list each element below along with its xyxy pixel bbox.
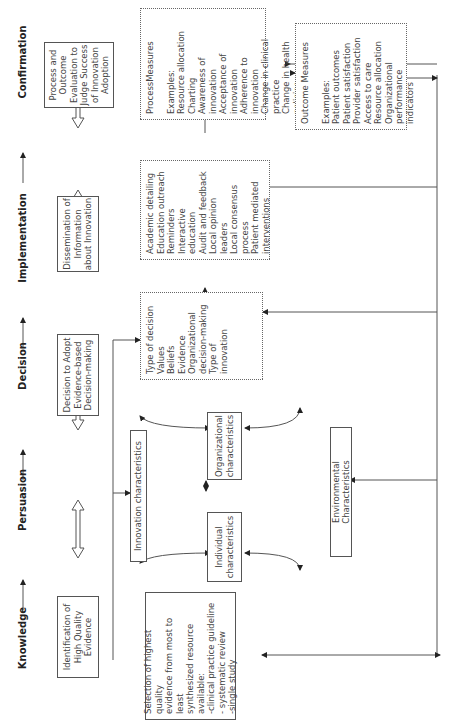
outcome-measures-list: Examples: Patient outcomes Patient satis… [321, 29, 416, 124]
stage-decision: Decision [17, 342, 28, 390]
decision-to-adopt-box: Decision to Adopt Evidence-based Decisio… [57, 334, 99, 416]
evidence-selection-box: Selection of highest quality evidence fr… [145, 592, 236, 720]
decision-factors-box: Type of decision Values Beliefs Evidence… [140, 292, 263, 380]
outcome-measures-box: Outcome Measures Examples: Patient outco… [295, 23, 407, 130]
identify-evidence-box: Identification of High Quality Evidence [57, 596, 99, 678]
stage-implementation: Implementation [17, 193, 28, 283]
stage-knowledge: Knowledge [17, 607, 28, 669]
individual-characteristics-box: Individual characteristics [207, 512, 242, 582]
evidence-adoption-diagram: Knowledge Persuasion Decision Implementa… [0, 0, 455, 728]
outcome-measures-title: Outcome Measures [300, 42, 311, 124]
implementation-strategies-box: Academic detailing Education outreach Re… [140, 160, 270, 260]
innovation-characteristics-box: Innovation characteristics [130, 430, 147, 562]
process-measures-title: ProcessMeasures [145, 41, 156, 114]
stage-confirmation: Confirmation [17, 25, 28, 98]
environmental-characteristics-box: Environmental Characteristics [330, 427, 352, 557]
stage-persuasion: Persuasion [17, 469, 28, 531]
double-arrows [72, 70, 84, 558]
process-measures-box: ProcessMeasures Examples: Resource alloc… [140, 8, 266, 120]
process-measures-list: Examples: Resource allocation Charting A… [166, 14, 303, 114]
evaluation-box: Process and Outcome Evaluation to Judge … [44, 42, 114, 108]
organizational-characteristics-box: Organizational characteristics [207, 412, 242, 480]
dissemination-box: Dissemination of Information about Innov… [57, 196, 99, 272]
